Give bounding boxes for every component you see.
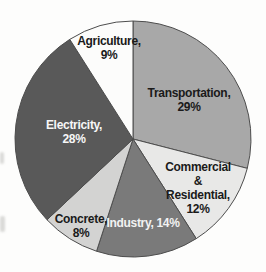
- scan-artifact: [0, 216, 5, 232]
- pie-chart-canvas: [0, 0, 266, 272]
- pie-chart: Transportation, 29% Commercial & Residen…: [0, 0, 266, 272]
- scan-artifact: [0, 152, 4, 164]
